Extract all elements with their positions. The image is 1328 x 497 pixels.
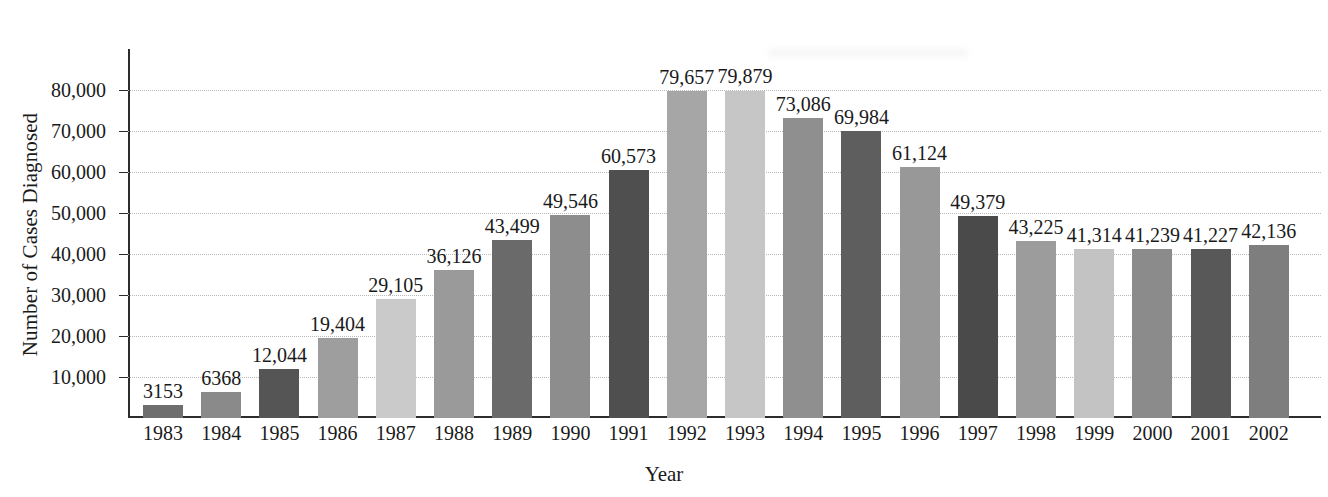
y-tick-10000: [119, 377, 128, 378]
y-tick-60000: [119, 172, 128, 173]
y-tick-label-70000: 70,000: [51, 121, 106, 141]
x-tick-label-1995: 1995: [831, 423, 891, 443]
bar-value-label-1995: 69,984: [813, 107, 909, 127]
x-tick-label-1998: 1998: [1006, 423, 1066, 443]
y-tick-30000: [119, 295, 128, 296]
y-axis-line: [128, 49, 130, 418]
y-tick-label-60000: 60,000: [51, 162, 106, 182]
bar-value-label-2002: 42,136: [1221, 221, 1317, 241]
bar-value-label-1996: 61,124: [872, 143, 968, 163]
bar-value-label-1986: 19,404: [290, 314, 386, 334]
x-tick-label-1996: 1996: [890, 423, 950, 443]
x-tick-label-2001: 2001: [1181, 423, 1241, 443]
x-axis-title: Year: [0, 462, 1328, 487]
x-tick-label-1989: 1989: [482, 423, 542, 443]
bar-1993: [725, 91, 765, 419]
y-tick-label-10000: 10,000: [51, 367, 106, 387]
plot-area: 3153636812,04419,40429,10536,12643,49949…: [128, 49, 1321, 418]
y-tick-label-20000: 20,000: [51, 326, 106, 346]
bar-value-label-1984: 6368: [173, 368, 269, 388]
y-tick-label-30000: 30,000: [51, 285, 106, 305]
x-tick-label-1997: 1997: [948, 423, 1008, 443]
bar-value-label-1997: 49,379: [930, 192, 1026, 212]
bar-1997: [958, 216, 998, 418]
bar-value-label-1991: 60,573: [581, 146, 677, 166]
bar-2000: [1132, 249, 1172, 418]
x-tick-label-2000: 2000: [1122, 423, 1182, 443]
y-tick-label-50000: 50,000: [51, 203, 106, 223]
y-tick-70000: [119, 131, 128, 132]
x-tick-label-1984: 1984: [191, 423, 251, 443]
bar-value-label-1993: 79,879: [697, 66, 793, 86]
x-tick-label-1994: 1994: [773, 423, 833, 443]
x-tick-label-1993: 1993: [715, 423, 775, 443]
x-tick-label-1990: 1990: [540, 423, 600, 443]
bar-value-label-1988: 36,126: [406, 246, 502, 266]
y-tick-50000: [119, 213, 128, 214]
x-tick-label-1999: 1999: [1064, 423, 1124, 443]
x-axis-tick-labels: 1983198419851986198719881989199019911992…: [128, 423, 1321, 453]
bar-1990: [550, 215, 590, 418]
bar-1984: [201, 392, 241, 418]
y-tick-80000: [119, 90, 128, 91]
bar-1999: [1074, 249, 1114, 418]
bar-1985: [259, 369, 299, 418]
bar-value-label-1985: 12,044: [231, 345, 327, 365]
bar-1992: [667, 91, 707, 418]
bar-1991: [609, 170, 649, 418]
x-tick-label-1985: 1985: [249, 423, 309, 443]
x-tick-label-1986: 1986: [308, 423, 368, 443]
bar-value-label-1990: 49,546: [522, 191, 618, 211]
bar-1988: [434, 270, 474, 418]
scan-artifact: [768, 49, 968, 57]
bar-2002: [1249, 245, 1289, 418]
y-tick-40000: [119, 254, 128, 255]
bar-1994: [783, 118, 823, 418]
bar-1998: [1016, 241, 1056, 418]
y-tick-label-40000: 40,000: [51, 244, 106, 264]
x-tick-label-1988: 1988: [424, 423, 484, 443]
bar-value-label-1989: 43,499: [464, 216, 560, 236]
x-tick-label-1991: 1991: [599, 423, 659, 443]
y-tick-20000: [119, 336, 128, 337]
bar-1983: [143, 405, 183, 418]
bar-value-label-1987: 29,105: [348, 275, 444, 295]
bar-2001: [1191, 249, 1231, 418]
bar-1986: [318, 338, 358, 418]
bar-1987: [376, 299, 416, 418]
x-tick-label-1983: 1983: [133, 423, 193, 443]
y-axis-tick-labels: 10,00020,00030,00040,00050,00060,00070,0…: [0, 49, 128, 418]
x-tick-label-1987: 1987: [366, 423, 426, 443]
x-tick-label-2002: 2002: [1239, 423, 1299, 443]
bar-1995: [841, 131, 881, 418]
x-tick-label-1992: 1992: [657, 423, 717, 443]
bar-1989: [492, 240, 532, 418]
y-tick-label-80000: 80,000: [51, 80, 106, 100]
bar-chart: Number of Cases Diagnosed 10,00020,00030…: [0, 0, 1328, 497]
